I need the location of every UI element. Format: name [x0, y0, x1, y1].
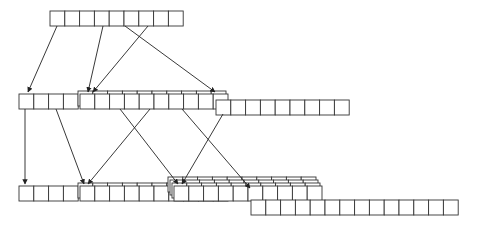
- array-cell: [281, 200, 296, 215]
- array-group: [19, 186, 78, 201]
- array-cell: [292, 186, 307, 201]
- array-group: [50, 11, 183, 26]
- array-cell: [34, 94, 49, 109]
- array-cell: [110, 186, 125, 201]
- array-cell: [154, 94, 169, 109]
- array-cell: [124, 11, 139, 26]
- array-cell: [355, 200, 370, 215]
- array-cell: [174, 186, 189, 201]
- array-cell: [246, 100, 261, 115]
- array-cell: [139, 186, 154, 201]
- pointer-arrow: [120, 109, 178, 184]
- array-cell: [80, 94, 95, 109]
- array-cell: [189, 186, 204, 201]
- pointer-arrow: [88, 109, 150, 184]
- array-cell: [399, 200, 414, 215]
- array-cell: [63, 94, 78, 109]
- array-cell: [94, 11, 109, 26]
- array-cell: [184, 94, 199, 109]
- array-cell: [19, 94, 34, 109]
- array-cell: [429, 200, 444, 215]
- array-cell: [260, 100, 275, 115]
- array-cell: [19, 186, 34, 201]
- array-cell: [340, 200, 355, 215]
- array-cell: [320, 100, 335, 115]
- array-cell: [139, 94, 154, 109]
- array-cell: [80, 186, 95, 201]
- array-cell: [139, 11, 154, 26]
- array-cell: [275, 100, 290, 115]
- array-diagram: [0, 0, 480, 227]
- array-cell: [63, 186, 78, 201]
- array-group: [216, 100, 349, 115]
- array-cell: [414, 200, 429, 215]
- array-cell: [443, 200, 458, 215]
- array-group: [78, 91, 228, 109]
- array-cell: [248, 186, 263, 201]
- array-cell: [231, 100, 246, 115]
- array-group: [251, 200, 458, 215]
- array-cell: [295, 200, 310, 215]
- array-cell: [334, 100, 349, 115]
- array-cell: [251, 200, 266, 215]
- array-cell: [266, 200, 281, 215]
- array-cell: [278, 186, 293, 201]
- cell-groups: [19, 11, 458, 215]
- array-cell: [50, 11, 65, 26]
- pointer-arrow: [56, 109, 84, 184]
- array-cell: [110, 94, 125, 109]
- array-cell: [307, 186, 322, 201]
- array-cell: [369, 200, 384, 215]
- array-cell: [198, 94, 213, 109]
- array-cell: [169, 94, 184, 109]
- array-cell: [49, 186, 64, 201]
- array-cell: [233, 186, 248, 201]
- array-cell: [124, 186, 139, 201]
- array-group: [19, 94, 78, 109]
- array-cell: [310, 200, 325, 215]
- array-cell: [204, 186, 219, 201]
- pointer-arrow: [182, 109, 250, 188]
- pointer-arrow: [125, 26, 215, 92]
- array-group: [168, 177, 322, 201]
- array-cell: [65, 11, 80, 26]
- array-cell: [34, 186, 49, 201]
- array-cell: [95, 94, 110, 109]
- array-cell: [325, 200, 340, 215]
- array-cell: [80, 11, 95, 26]
- array-cell: [49, 94, 64, 109]
- array-cell: [290, 100, 305, 115]
- array-cell: [154, 11, 169, 26]
- array-cell: [154, 186, 169, 201]
- array-cell: [216, 100, 231, 115]
- row-level-2: [19, 177, 458, 215]
- array-cell: [168, 11, 183, 26]
- array-cell: [218, 186, 233, 201]
- array-cell: [95, 186, 110, 201]
- pointer-arrow: [93, 26, 148, 92]
- array-cell: [263, 186, 278, 201]
- array-cell: [384, 200, 399, 215]
- pointer-arrow: [28, 26, 57, 92]
- array-cell: [305, 100, 320, 115]
- row-level-0: [50, 11, 183, 26]
- array-cell: [124, 94, 139, 109]
- array-cell: [109, 11, 124, 26]
